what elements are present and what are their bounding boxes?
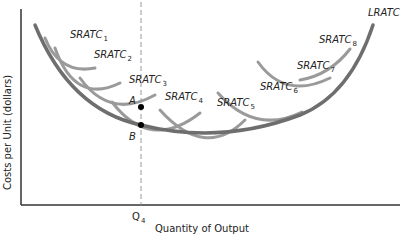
sratc-2-label: SRATC2 xyxy=(94,49,132,63)
sratc-curves xyxy=(45,38,350,138)
sratc-1-label: SRATC1 xyxy=(70,29,108,43)
q4-tick-label: Q4 xyxy=(132,211,146,225)
sratc-1-curve xyxy=(45,38,95,69)
lratc-label: LRATC xyxy=(368,7,400,18)
sratc-7-label: SRATC7 xyxy=(297,60,335,74)
y-axis-title: Costs per Unit (dollars) xyxy=(2,75,13,190)
sratc-6-label: SRATC6 xyxy=(260,81,299,95)
chart-svg: SRATC1 SRATC2 SRATC3 SRATC4 SRATC5 SRATC… xyxy=(0,0,401,236)
point-a xyxy=(138,104,144,110)
sratc-3-label: SRATC3 xyxy=(129,74,167,88)
x-axis-title: Quantity of Output xyxy=(155,223,249,234)
sratc-4-curve xyxy=(112,102,200,130)
sratc-4-label: SRATC4 xyxy=(165,91,204,105)
point-b-label: B xyxy=(129,131,136,142)
point-a-label: A xyxy=(128,95,136,106)
point-b xyxy=(138,122,144,128)
sratc-8-label: SRATC8 xyxy=(319,34,357,48)
